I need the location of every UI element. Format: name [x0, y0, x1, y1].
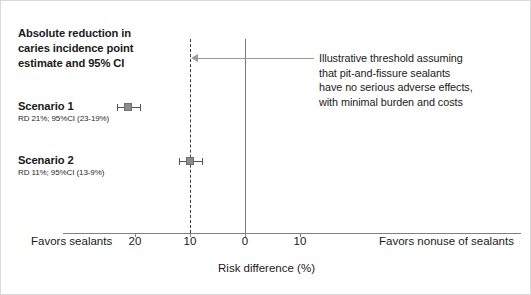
annotation-line-2: that pit-and-fissure sealants	[319, 66, 524, 81]
x-axis-tick-label-10-left: 10	[170, 235, 210, 247]
null-effect-reference-line	[245, 39, 246, 233]
row-name-scenario-2: Scenario 2	[18, 153, 188, 167]
ci-cap-lower-scenario-1	[140, 104, 141, 111]
row-label-scenario-2: Scenario 2 RD 11%; 95%CI (13-9%)	[18, 153, 188, 178]
annotation-arrow-icon	[191, 54, 198, 62]
favors-nonuse-label: Favors nonuse of sealants	[379, 235, 514, 247]
x-axis-tick-label-20: 20	[115, 235, 155, 247]
ci-cap-upper-scenario-2	[179, 158, 180, 165]
annotation-line-4: with minimal burden and costs	[319, 95, 524, 110]
row-stat-scenario-2: RD 11%; 95%CI (13-9%)	[18, 167, 188, 178]
forest-plot-figure: Absolute reduction in caries incidence p…	[0, 0, 531, 295]
threshold-annotation: Illustrative threshold assuming that pit…	[319, 51, 524, 109]
page-title: Absolute reduction in caries incidence p…	[18, 26, 178, 71]
point-estimate-scenario-1	[124, 103, 132, 111]
favors-sealants-label: Favors sealants	[31, 235, 112, 247]
annotation-line-1: Illustrative threshold assuming	[319, 51, 524, 66]
title-line-2: caries incidence point	[18, 41, 178, 56]
x-axis-tick-label-0: 0	[225, 235, 265, 247]
row-stat-scenario-1: RD 21%; 95%CI (23-19%)	[18, 113, 188, 124]
ci-cap-lower-scenario-2	[202, 158, 203, 165]
row-label-scenario-1: Scenario 1 RD 21%; 95%CI (23-19%)	[18, 99, 188, 124]
annotation-leader-line	[197, 58, 314, 59]
x-axis-line	[63, 233, 521, 234]
x-axis-title: Risk difference (%)	[1, 262, 531, 274]
x-axis-tick-label-10-right: 10	[280, 235, 320, 247]
row-name-scenario-1: Scenario 1	[18, 99, 188, 113]
ci-cap-upper-scenario-1	[117, 104, 118, 111]
point-estimate-scenario-2	[186, 157, 194, 165]
threshold-reference-line	[190, 39, 191, 233]
title-line-1: Absolute reduction in	[18, 26, 178, 41]
annotation-line-3: have no serious adverse effects,	[319, 80, 524, 95]
title-line-3: estimate and 95% CI	[18, 56, 178, 71]
